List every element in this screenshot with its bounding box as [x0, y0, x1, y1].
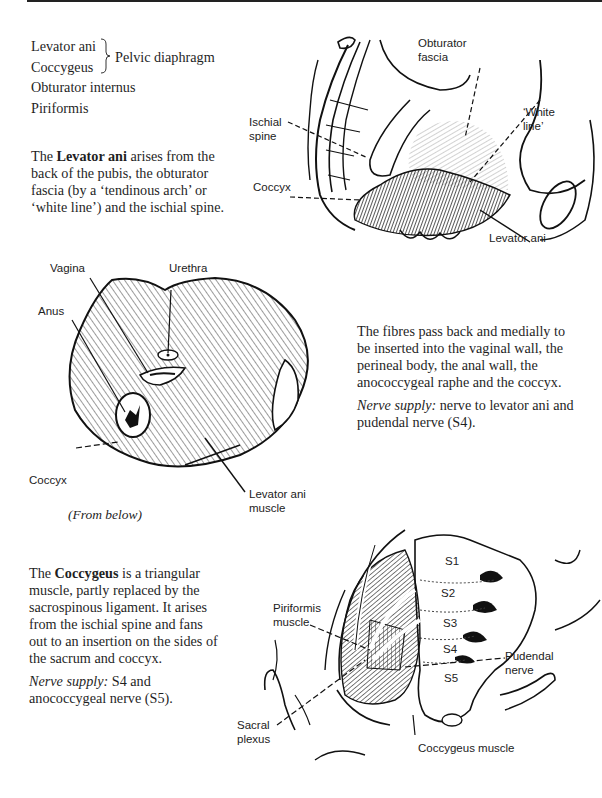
- label-s4: S4: [443, 642, 457, 656]
- label-s3: S3: [443, 616, 457, 630]
- label-obturator-fascia: Obturator fascia: [418, 36, 467, 64]
- coccygeus-paragraph: The Coccygeus is a triangular muscle, pa…: [29, 565, 269, 707]
- label-coccyx-fig2: Coccyx: [29, 473, 67, 487]
- page-top-rule: [27, 0, 602, 2]
- label-vagina: Vagina: [50, 261, 85, 275]
- levator-ani-term: Levator ani: [57, 148, 127, 164]
- label-coccygeus-muscle: Coccygeus muscle: [418, 741, 515, 755]
- label-pudendal-nerve: Pudendal nerve: [505, 649, 554, 677]
- label-s1: S1: [445, 554, 459, 568]
- label-anus: Anus: [38, 304, 64, 318]
- label-ischial-spine: Ischial spine: [249, 115, 282, 143]
- muscle-list-item: Obturator internus: [31, 79, 135, 100]
- label-coccyx-fig1: Coccyx: [253, 180, 291, 194]
- label-white-line: ‘White line’: [523, 105, 555, 133]
- label-levator-ani-muscle: Levator ani muscle: [249, 487, 306, 515]
- pelvic-diaphragm-label: Pelvic diaphragm: [115, 49, 215, 66]
- fibres-paragraph: The fibres pass back and medially to be …: [357, 323, 602, 431]
- coccygeus-term: Coccygeus: [55, 565, 119, 581]
- label-sacral-plexus: Sacral plexus: [237, 718, 270, 746]
- nerve-supply-label: Nerve supply:: [357, 397, 436, 413]
- muscle-list-item: Piriformis: [31, 100, 135, 121]
- levator-ani-intro-paragraph: The Levator ani arises from the back of …: [31, 148, 271, 216]
- nerve-supply-label: Nerve supply:: [29, 673, 108, 689]
- label-s5: S5: [444, 671, 458, 685]
- label-levator-ani-fig1: Levator ani: [489, 231, 546, 245]
- brace-icon: [100, 38, 112, 74]
- figure-caption-from-below: (From below): [68, 506, 142, 523]
- label-s2: S2: [441, 586, 455, 600]
- figure-sacrum-coccygeus: [255, 520, 602, 770]
- figure-pelvic-floor-from-below: [0, 260, 330, 480]
- label-urethra: Urethra: [169, 261, 207, 275]
- label-piriformis-muscle: Piriformis muscle: [273, 601, 321, 629]
